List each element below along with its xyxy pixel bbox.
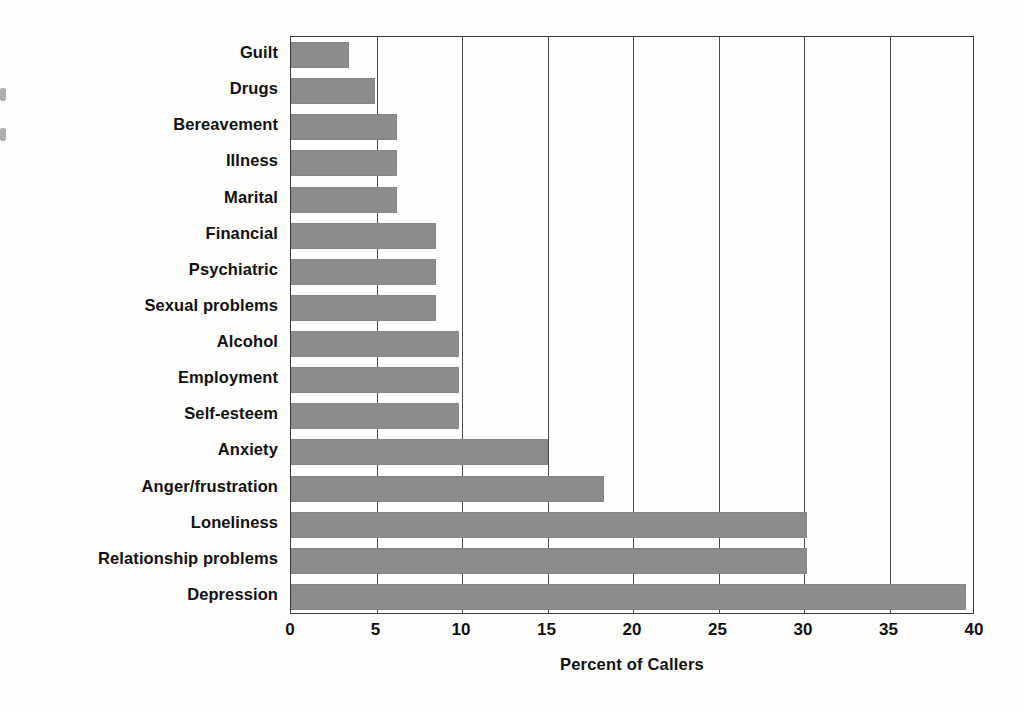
category-label: Guilt	[0, 43, 278, 62]
bar-row	[291, 584, 975, 610]
category-label: Drugs	[0, 79, 278, 98]
category-label: Psychiatric	[0, 260, 278, 279]
x-tick-label: 35	[859, 620, 919, 640]
category-label: Employment	[0, 368, 278, 387]
x-tick-label: 15	[517, 620, 577, 640]
category-label: Relationship problems	[0, 549, 278, 568]
bar	[291, 42, 349, 68]
bar	[291, 584, 966, 610]
x-tick-label: 0	[260, 620, 320, 640]
category-axis-labels: GuiltDrugsBereavementIllnessMaritalFinan…	[0, 0, 278, 712]
category-label: Illness	[0, 151, 278, 170]
x-tick-label: 30	[773, 620, 833, 640]
category-label: Bereavement	[0, 115, 278, 134]
x-tick-label: 10	[431, 620, 491, 640]
bar	[291, 439, 548, 465]
bar-row	[291, 259, 975, 285]
x-tick-label: 25	[688, 620, 748, 640]
bar-row	[291, 548, 975, 574]
category-label: Anger/frustration	[0, 477, 278, 496]
bar-row	[291, 512, 975, 538]
x-tick-label: 20	[602, 620, 662, 640]
bar	[291, 150, 397, 176]
bar-row	[291, 295, 975, 321]
bar	[291, 331, 459, 357]
bar-row	[291, 331, 975, 357]
x-tick-label: 40	[944, 620, 1004, 640]
bar-row	[291, 187, 975, 213]
category-label: Marital	[0, 188, 278, 207]
x-tick-label: 5	[346, 620, 406, 640]
bar	[291, 548, 807, 574]
bar-row	[291, 367, 975, 393]
category-label: Loneliness	[0, 513, 278, 532]
plot-area	[290, 36, 974, 614]
bar	[291, 403, 459, 429]
bar	[291, 259, 436, 285]
bar	[291, 295, 436, 321]
category-label: Alcohol	[0, 332, 278, 351]
bar-row	[291, 150, 975, 176]
bar-row	[291, 114, 975, 140]
bar	[291, 187, 397, 213]
bar-row	[291, 403, 975, 429]
bar-row	[291, 78, 975, 104]
bar-row	[291, 223, 975, 249]
category-label: Anxiety	[0, 440, 278, 459]
bar-row	[291, 439, 975, 465]
category-label: Financial	[0, 224, 278, 243]
category-label: Self-esteem	[0, 404, 278, 423]
bar-row	[291, 42, 975, 68]
bar	[291, 114, 397, 140]
bar	[291, 476, 604, 502]
bar-row	[291, 476, 975, 502]
bar	[291, 367, 459, 393]
bar	[291, 78, 375, 104]
category-label: Sexual problems	[0, 296, 278, 315]
bar	[291, 223, 436, 249]
x-axis-title: Percent of Callers	[290, 655, 974, 674]
bar	[291, 512, 807, 538]
horizontal-bar-chart: GuiltDrugsBereavementIllnessMaritalFinan…	[0, 0, 1024, 712]
category-label: Depression	[0, 585, 278, 604]
